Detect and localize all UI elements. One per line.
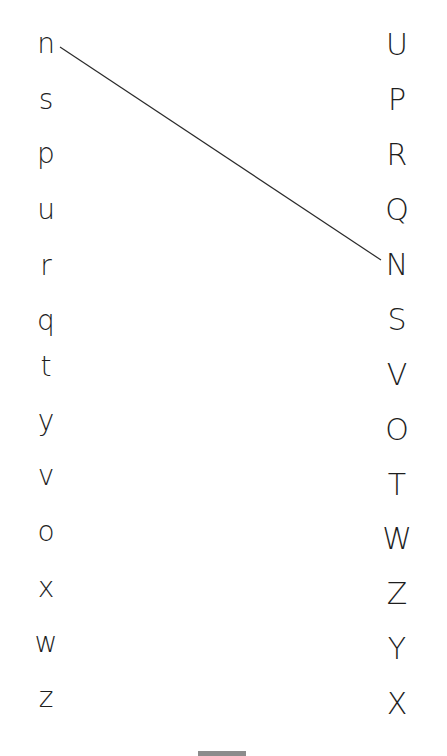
lowercase-letter[interactable]: s [16, 86, 76, 114]
lowercase-letter[interactable]: v [16, 462, 76, 490]
lowercase-letter[interactable]: q [16, 307, 76, 335]
uppercase-letter[interactable]: S [367, 305, 427, 335]
lowercase-letter[interactable]: t [16, 353, 76, 381]
lowercase-letter[interactable]: x [16, 574, 76, 602]
uppercase-letter[interactable]: O [367, 415, 427, 445]
match-line-n-to-N [60, 47, 381, 260]
lowercase-letter[interactable]: o [16, 518, 76, 546]
uppercase-letter[interactable]: U [367, 30, 427, 60]
uppercase-letter[interactable]: P [367, 85, 427, 115]
page-footer-tab [198, 751, 246, 756]
uppercase-letter[interactable]: Q [367, 195, 427, 225]
letter-matching-worksheet: n s p u r q t y v o x w z U P R Q N S V … [0, 0, 447, 756]
uppercase-letter[interactable]: W [367, 524, 427, 554]
lowercase-letter[interactable]: y [16, 407, 76, 435]
uppercase-letter[interactable]: V [367, 360, 427, 390]
lowercase-letter[interactable]: r [16, 252, 76, 280]
lowercase-letter[interactable]: n [16, 30, 76, 58]
lowercase-letter[interactable]: p [16, 140, 76, 168]
uppercase-letter[interactable]: T [367, 470, 427, 500]
lowercase-letter[interactable]: z [16, 684, 76, 712]
uppercase-letter[interactable]: R [367, 140, 427, 170]
lowercase-letter[interactable]: w [16, 629, 76, 657]
uppercase-letter[interactable]: N [367, 250, 427, 280]
uppercase-letter[interactable]: Z [367, 579, 427, 609]
lowercase-letter[interactable]: u [16, 196, 76, 224]
uppercase-letter[interactable]: Y [367, 634, 427, 664]
uppercase-letter[interactable]: X [367, 689, 427, 719]
